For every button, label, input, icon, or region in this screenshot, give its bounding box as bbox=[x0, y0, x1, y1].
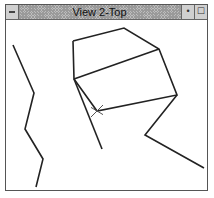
down-arrow-icon: • bbox=[186, 6, 189, 16]
view-window: View 2-Top • ☐ bbox=[5, 4, 208, 191]
lower-edge-line bbox=[74, 79, 102, 149]
left-zigzag-line bbox=[13, 45, 43, 187]
square-icon: ☐ bbox=[197, 6, 205, 16]
crosshair-marker-icon bbox=[91, 107, 103, 114]
wireframe-scene bbox=[6, 20, 207, 190]
system-menu-button[interactable] bbox=[6, 5, 19, 19]
dash-icon bbox=[9, 11, 15, 13]
title-bar[interactable]: View 2-Top • ☐ bbox=[6, 5, 207, 20]
upper-polygon-line bbox=[73, 28, 177, 111]
maximize-button[interactable]: ☐ bbox=[194, 5, 207, 19]
viewport-canvas[interactable] bbox=[6, 20, 207, 190]
minimize-button[interactable]: • bbox=[181, 5, 194, 19]
window-title: View 2-Top bbox=[20, 5, 179, 19]
middle-edge-line bbox=[74, 49, 159, 79]
right-zigzag-line bbox=[145, 95, 204, 168]
